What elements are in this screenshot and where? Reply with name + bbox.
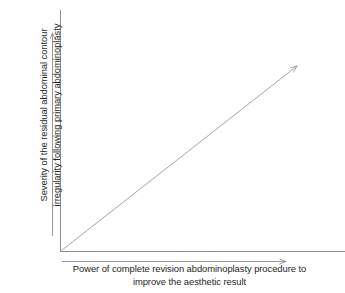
x-axis-line	[60, 251, 345, 252]
y-axis-label: Severity of the residual abdominal conto…	[38, 0, 72, 231]
y-axis-label-line-2: irregularity following primary abdominop…	[51, 0, 64, 231]
x-axis-label-line-1: Power of complete revision abdominoplast…	[47, 263, 332, 276]
trend-line	[62, 66, 298, 251]
x-axis-label-line-2: improve the aesthetic result	[47, 276, 332, 289]
y-axis-label-line-1: Severity of the residual abdominal conto…	[38, 0, 51, 231]
chart-figure: Severity of the residual abdominal conto…	[0, 0, 345, 293]
x-axis-label: Power of complete revision abdominoplast…	[47, 263, 332, 288]
